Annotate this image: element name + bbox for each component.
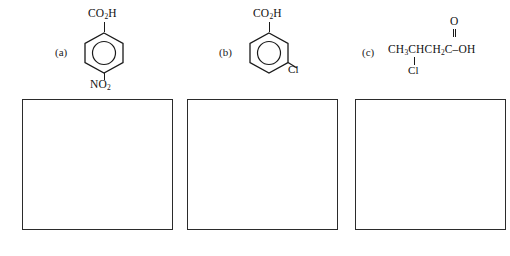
answer-box-b[interactable] (187, 99, 338, 230)
bond-carboxyl-a (104, 22, 105, 32)
condensed-formula-c: CH3CHCH2C–OH (388, 44, 476, 56)
benzene-ring-b (248, 32, 290, 74)
double-bond-c (452, 29, 457, 37)
chloro-label-c: Cl (408, 65, 419, 76)
bond-carboxyl-b (269, 22, 270, 32)
answer-box-c[interactable] (355, 99, 506, 230)
chloro-label-b: Cl (288, 64, 299, 75)
answer-box-a[interactable] (22, 99, 173, 230)
item-label-c: (c) (362, 47, 374, 58)
carboxyl-label-a: CO2H (88, 8, 117, 20)
carboxyl-label-b: CO2H (253, 8, 282, 20)
worksheet-canvas: (a) CO2H NO2 (b) CO2H (0, 0, 510, 256)
item-label-a: (a) (55, 47, 67, 58)
nitro-label-a: NO2 (90, 79, 111, 91)
item-label-b: (b) (219, 47, 232, 58)
carbonyl-oxygen-label-c: O (450, 16, 459, 28)
benzene-ring-a (83, 32, 125, 74)
